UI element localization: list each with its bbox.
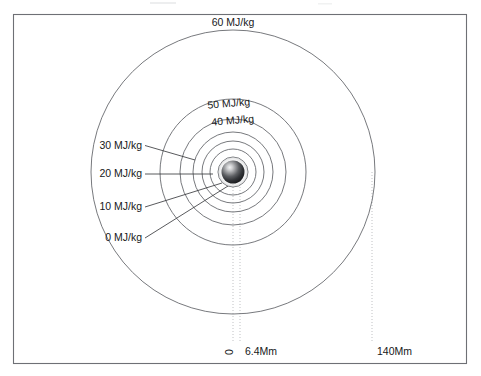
contour-label-20: 20 MJ/kg [99, 167, 142, 179]
distance-guides [233, 172, 372, 341]
leader-lines [145, 146, 228, 239]
figure-root: 60 MJ/kg 50 MJ/kg 40 MJ/kg 30 MJ/kg 20 M… [0, 0, 481, 376]
contour-label-60: 60 MJ/kg [212, 16, 255, 28]
axis-tick-140mm: 140Mm [377, 345, 412, 357]
contour-label-30: 30 MJ/kg [99, 139, 142, 151]
contour-label-50: 50 MJ/kg [207, 95, 251, 111]
leader-30 [145, 146, 195, 161]
contour-figure: 60 MJ/kg 50 MJ/kg 40 MJ/kg 30 MJ/kg 20 M… [0, 0, 481, 376]
axis-tick-6-4mm: 6.4Mm [245, 345, 277, 357]
axis-tick-0: 0 [223, 349, 235, 355]
contour-label-40: 40 MJ/kg [211, 112, 255, 128]
contour-label-0: 0 MJ/kg [105, 231, 142, 243]
scan-artifact-2 [318, 3, 332, 5]
figure-frame [14, 15, 467, 364]
contour-label-10: 10 MJ/kg [99, 200, 142, 212]
scan-artifact [150, 2, 176, 4]
sphere-icon [222, 161, 245, 184]
central-body [219, 158, 248, 187]
leader-10 [145, 183, 222, 207]
